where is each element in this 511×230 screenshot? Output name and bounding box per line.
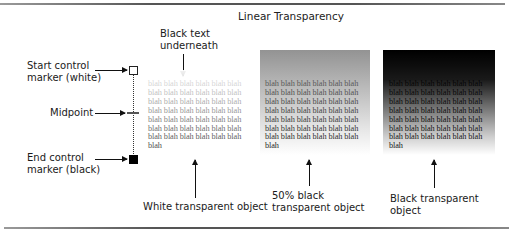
arrow-gray-object [309,160,310,186]
arrow-end-marker [95,159,127,160]
arrow-start-marker [95,70,127,71]
black-transparent-object [383,50,495,155]
label-gray-object: 50% black transparent object [272,190,364,214]
arrow-white-object [195,160,196,198]
label-black-text-underneath: Black text underneath [160,28,218,52]
bottom-rule [4,227,509,229]
start-control-marker[interactable] [129,66,138,75]
top-rule [0,3,505,5]
label-start-marker: Start control marker (white) [27,60,101,84]
end-control-marker[interactable] [129,155,138,164]
midpoint-marker[interactable] [127,112,139,114]
gray-transparent-object [260,50,370,155]
figure-title: Linear Transparency [238,10,344,22]
label-black-object: Black transparent object [390,193,511,217]
arrow-midpoint [95,113,125,114]
white-transparent-object [144,70,256,165]
label-white-object: White transparent object [143,201,268,213]
gradient-path-line [133,73,134,156]
label-end-marker: End control marker (black) [27,152,100,176]
label-midpoint: Midpoint [50,107,93,119]
arrow-black-object [434,160,435,188]
